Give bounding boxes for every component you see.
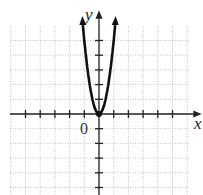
origin-label: 0 bbox=[80, 120, 88, 138]
vertex-point bbox=[96, 111, 102, 117]
x-axis-label: x bbox=[194, 114, 202, 134]
grid-lines bbox=[10, 26, 190, 195]
coordinate-plane bbox=[0, 0, 203, 195]
y-axis-label: y bbox=[85, 5, 93, 25]
